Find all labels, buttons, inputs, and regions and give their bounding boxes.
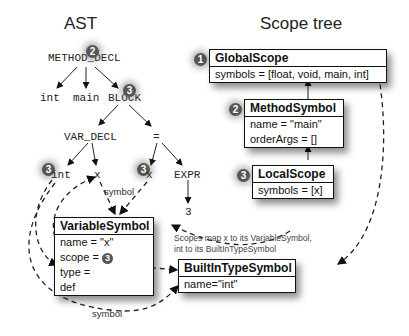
ast-node-expr: EXPR: [174, 169, 200, 181]
variable-symbol-scope-row: scope = 3: [55, 250, 153, 265]
ast-node-3: 3: [185, 206, 192, 218]
scope-badge-1: 1: [194, 53, 207, 66]
variable-symbol-title: VariableSymbol: [55, 218, 153, 235]
scope-badge-2: 2: [229, 103, 242, 116]
local-scope-symbols: symbols = [x]: [253, 183, 333, 198]
note-line-1: Scopes map x to its VariableSymbol,: [174, 233, 312, 244]
ast-node-assign: =: [153, 131, 160, 143]
ast-node-main: main: [73, 92, 99, 104]
variable-symbol-scope: scope =: [60, 251, 102, 263]
variable-symbol-box: VariableSymbol name = "x" scope = 3 type…: [54, 217, 154, 296]
note-line-2: int to its BuiltInTypeSymbol: [174, 244, 312, 255]
method-symbol-box: MethodSymbol name = "main" orderArgs = […: [244, 99, 344, 148]
scope-tree-title: Scope tree: [260, 14, 342, 34]
ast-node-x-ref: x: [146, 169, 153, 181]
scope-badge-3: 3: [123, 84, 136, 97]
scope-mapping-note: Scopes map x to its VariableSymbol, int …: [174, 233, 312, 255]
symbol-label-bottom: symbol: [92, 308, 122, 319]
global-scope-box: GlobalScope symbols = [float, void, main…: [209, 49, 387, 83]
builtin-type-symbol-name: name="int": [179, 277, 295, 292]
ast-node-method-decl: METHOD_DECL: [48, 52, 121, 64]
symbol-label-top: symbol: [104, 186, 134, 197]
variable-symbol-type: type =: [55, 265, 153, 280]
local-scope-box: LocalScope symbols = [x]: [252, 165, 334, 199]
method-symbol-name: name = "main": [245, 117, 343, 132]
global-scope-title: GlobalScope: [210, 50, 386, 67]
scope-badge-3: 3: [102, 253, 113, 264]
ast-node-int-type: int: [51, 169, 71, 181]
variable-symbol-def: def: [55, 280, 153, 295]
global-scope-symbols: symbols = [float, void, main, int]: [210, 67, 386, 82]
ast-title: AST: [64, 14, 97, 34]
ast-node-var-decl: VAR_DECL: [64, 131, 117, 143]
builtin-type-symbol-title: BuiltInTypeSymbol: [179, 260, 295, 277]
builtin-type-symbol-box: BuiltInTypeSymbol name="int": [178, 259, 296, 293]
method-symbol-order-args: orderArgs = []: [245, 132, 343, 147]
ast-node-int: int: [40, 92, 60, 104]
scope-badge-2: 2: [86, 45, 99, 58]
variable-symbol-name: name = "x": [55, 235, 153, 250]
scope-badge-3: 3: [237, 169, 250, 182]
method-symbol-title: MethodSymbol: [245, 100, 343, 117]
ast-node-x-decl: x: [94, 169, 101, 181]
local-scope-title: LocalScope: [253, 166, 333, 183]
